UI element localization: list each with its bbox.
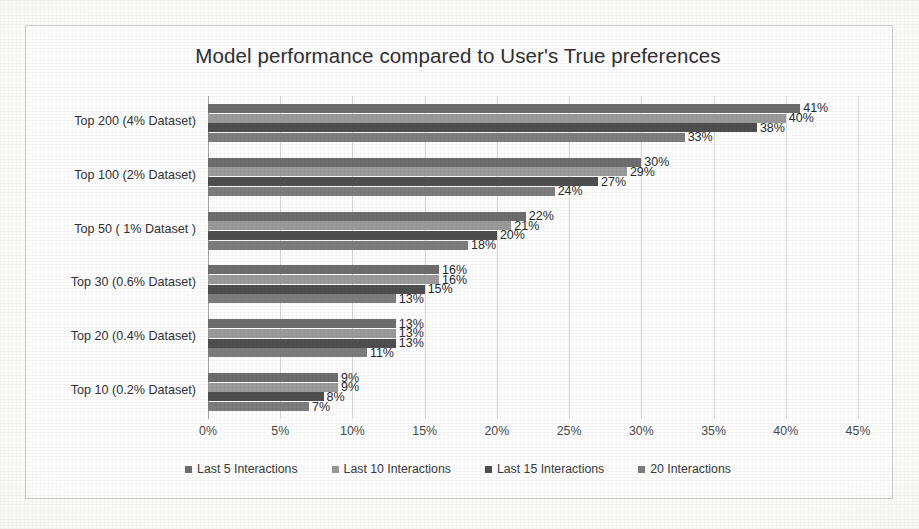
plot-area: 41%40%38%33%30%29%27%24%22%21%20%18%16%1… (208, 96, 858, 419)
bar[interactable] (208, 104, 800, 113)
value-axis-tick: 35% (701, 424, 726, 438)
bar-row: 33% (208, 133, 858, 142)
bar-value-label: 7% (312, 400, 330, 414)
chart-title: Model performance compared to User's Tru… (25, 44, 891, 68)
bar-value-label: 11% (370, 346, 394, 360)
bar[interactable] (208, 339, 396, 348)
bar-row: 8% (208, 392, 858, 401)
bar[interactable] (208, 275, 439, 284)
legend-label: Last 15 Interactions (497, 462, 604, 476)
bar[interactable] (208, 348, 367, 357)
bar-row: 20% (208, 231, 858, 240)
bar-row: 13% (208, 329, 858, 338)
bar-value-label: 24% (558, 184, 583, 198)
bar-row: 9% (208, 383, 858, 392)
legend-swatch-icon (332, 466, 339, 473)
bar[interactable] (208, 158, 641, 167)
legend-swatch-icon (638, 466, 645, 473)
bar[interactable] (208, 241, 468, 250)
bar-row: 15% (208, 285, 858, 294)
gridline (569, 96, 570, 419)
bar[interactable] (208, 221, 511, 230)
bar[interactable] (208, 231, 497, 240)
bar[interactable] (208, 177, 598, 186)
bar[interactable] (208, 294, 396, 303)
value-axis-line (208, 96, 209, 419)
value-axis-tick: 5% (271, 424, 289, 438)
bar-value-label: 13% (399, 292, 424, 306)
legend-label: 20 Interactions (650, 462, 731, 476)
category-label: Top 100 (2% Dataset) (74, 168, 196, 182)
legend-swatch-icon (185, 466, 192, 473)
gridline (425, 96, 426, 419)
legend-item[interactable]: Last 5 Interactions (185, 462, 297, 476)
gridline (280, 96, 281, 419)
legend-label: Last 5 Interactions (197, 462, 297, 476)
category-label: Top 200 (4% Dataset) (74, 114, 196, 128)
bar-row: 41% (208, 104, 858, 113)
bar-row: 30% (208, 158, 858, 167)
value-axis-tick: 40% (773, 424, 798, 438)
bar-row: 13% (208, 294, 858, 303)
bar[interactable] (208, 114, 786, 123)
gridline (858, 96, 859, 419)
bar[interactable] (208, 123, 757, 132)
chart-legend: Last 5 InteractionsLast 10 InteractionsL… (25, 462, 891, 476)
bar-row: 13% (208, 339, 858, 348)
bar[interactable] (208, 319, 396, 328)
bar[interactable] (208, 402, 309, 411)
value-axis-tick-labels: 0%5%10%15%20%25%30%35%40%45% (208, 424, 858, 444)
legend-item[interactable]: Last 15 Interactions (485, 462, 604, 476)
bar-row: 11% (208, 348, 858, 357)
legend-item[interactable]: Last 10 Interactions (332, 462, 451, 476)
bar[interactable] (208, 383, 338, 392)
legend-item[interactable]: 20 Interactions (638, 462, 731, 476)
gridline (497, 96, 498, 419)
bar-row: 16% (208, 275, 858, 284)
bar[interactable] (208, 167, 627, 176)
category-label: Top 30 (0.6% Dataset) (71, 275, 196, 289)
value-axis-tick: 25% (557, 424, 582, 438)
bar[interactable] (208, 329, 396, 338)
bar[interactable] (208, 265, 439, 274)
value-axis-tick: 20% (484, 424, 509, 438)
bar[interactable] (208, 212, 526, 221)
bar[interactable] (208, 285, 425, 294)
gridline (714, 96, 715, 419)
bar[interactable] (208, 133, 685, 142)
bar-row: 13% (208, 319, 858, 328)
value-axis-tick: 15% (412, 424, 437, 438)
bar-row: 24% (208, 187, 858, 196)
legend-swatch-icon (485, 466, 492, 473)
bar-row: 38% (208, 123, 858, 132)
bar-row: 7% (208, 402, 858, 411)
gridline (641, 96, 642, 419)
bar-row: 21% (208, 221, 858, 230)
category-label: Top 10 (0.2% Dataset) (71, 383, 196, 397)
bar[interactable] (208, 373, 338, 382)
bar[interactable] (208, 392, 324, 401)
category-label: Top 50 ( 1% Dataset ) (74, 222, 196, 236)
bar-value-label: 33% (688, 130, 713, 144)
bar-row: 27% (208, 177, 858, 186)
bar-row: 16% (208, 265, 858, 274)
category-label: Top 20 (0.4% Dataset) (71, 329, 196, 343)
value-axis-tick: 0% (199, 424, 217, 438)
bar-row: 29% (208, 167, 858, 176)
gridline (786, 96, 787, 419)
bar[interactable] (208, 187, 555, 196)
bar-value-label: 18% (471, 238, 496, 252)
bar-row: 18% (208, 241, 858, 250)
bar-row: 9% (208, 373, 858, 382)
value-axis-tick: 10% (340, 424, 365, 438)
value-axis-tick: 45% (846, 424, 871, 438)
legend-label: Last 10 Interactions (344, 462, 451, 476)
value-axis-tick: 30% (629, 424, 654, 438)
